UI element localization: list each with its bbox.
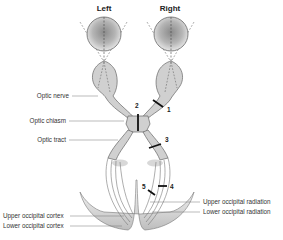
lesion-4: 4 [170, 183, 174, 190]
right-eye-icon [147, 17, 194, 62]
left-eye-icon [80, 17, 127, 62]
label-optic-tract: Optic tract [37, 136, 66, 144]
right-lgn [147, 160, 163, 167]
lesion-5: 5 [142, 183, 146, 190]
label-optic-nerve: Optic nerve [37, 92, 70, 100]
label-lower-occipital-radiation: Lower occipital radiation [203, 208, 271, 216]
label-optic-chiasm: Optic chiasm [30, 117, 66, 125]
label-upper-occipital-cortex: Upper occipital cortex [3, 212, 64, 220]
label-upper-occipital-radiation: Upper occipital radiation [203, 198, 271, 206]
lesion-3: 3 [165, 136, 169, 143]
lesion-2: 2 [135, 102, 139, 109]
lesion-1: 1 [167, 106, 171, 113]
header-right: Right [160, 4, 181, 13]
header-left: Left [97, 4, 112, 13]
label-lower-occipital-cortex: Lower occipital cortex [3, 222, 64, 230]
visual-pathway-diagram: Left Right [0, 0, 283, 240]
occipital-cortex [80, 180, 194, 230]
